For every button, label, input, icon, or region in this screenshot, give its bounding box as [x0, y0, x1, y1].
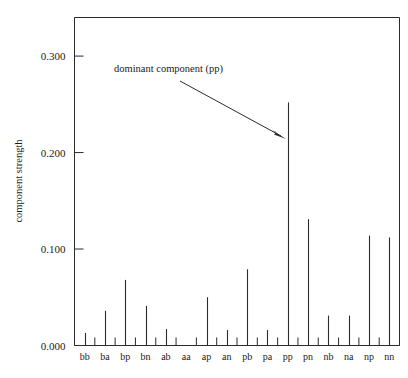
- x-tick-label: bb: [80, 351, 90, 362]
- y-tick-label: 0.100: [41, 243, 66, 255]
- x-tick-label: na: [344, 351, 354, 362]
- x-tick-label: pn: [303, 351, 313, 362]
- x-tick-label: ab: [161, 351, 170, 362]
- x-tick-label: ap: [202, 351, 211, 362]
- y-axis-title: component strength: [13, 139, 24, 223]
- x-axis-ticks: bbbabpbnabaaapanpbpapppnnbnanpnn: [75, 338, 400, 362]
- x-tick-label: ba: [100, 351, 110, 362]
- x-tick-label: pa: [263, 351, 273, 362]
- annotation-arrow-head: [272, 130, 286, 139]
- x-tick-label: nb: [323, 351, 333, 362]
- annotation-text: dominant component (pp): [114, 63, 224, 75]
- y-tick-label: 0.300: [41, 50, 66, 62]
- annotation-group: dominant component (pp): [114, 63, 286, 139]
- x-tick-label: aa: [182, 351, 191, 362]
- x-tick-label: an: [222, 351, 231, 362]
- y-tick-label: 0.200: [41, 147, 66, 159]
- x-tick-label: bp: [120, 351, 130, 362]
- x-tick-label: nn: [384, 351, 394, 362]
- x-tick-label: bn: [141, 351, 151, 362]
- y-tick-label: 0.000: [41, 340, 66, 352]
- component-strength-bar-chart: 0.0000.1000.2000.300 bbbabpbnabaaapanpbp…: [0, 0, 408, 378]
- y-axis-ticks: 0.0000.1000.2000.300: [41, 50, 84, 351]
- annotation-arrow-line: [180, 81, 281, 136]
- chart-container: 0.0000.1000.2000.300 bbbabpbnabaaapanpbp…: [0, 0, 408, 378]
- bar-series: [86, 102, 390, 345]
- x-tick-label: pp: [283, 351, 293, 362]
- x-tick-label: np: [364, 351, 374, 362]
- x-tick-label: pb: [242, 351, 252, 362]
